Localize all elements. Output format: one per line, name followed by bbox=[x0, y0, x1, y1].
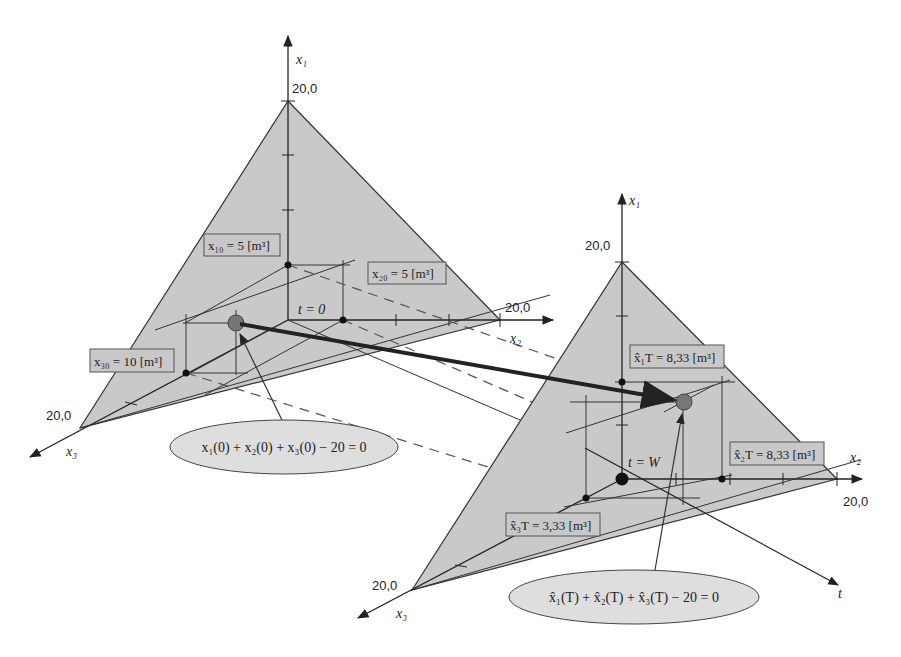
right-x3-label: x₃ bbox=[395, 606, 407, 621]
label-x10: x₁₀ = 5 [m³] bbox=[204, 234, 280, 256]
diagram-canvas: x₁ 20,0 20,0 x₂ 20,0 x₃ t = 0 x₁₀ = 5 [m… bbox=[0, 0, 901, 657]
left-x2-max: 20,0 bbox=[505, 300, 530, 315]
right-state-point bbox=[676, 394, 692, 410]
label-x30: x₃₀ = 10 [m³] bbox=[90, 349, 174, 372]
left-x3-label: x₃ bbox=[65, 444, 77, 459]
left-constraint-ellipse: x₁(0) + x₂(0) + x₃(0) − 20 = 0 bbox=[170, 420, 398, 474]
right-t-label: t bbox=[838, 586, 843, 601]
right-origin-point bbox=[616, 473, 629, 486]
label-x1T: x̂₁T = 8,33 [m³] bbox=[630, 345, 724, 368]
left-x2-label: x₂ bbox=[509, 331, 521, 346]
label-x20: x₂₀ = 5 [m³] bbox=[368, 262, 446, 284]
svg-text:x₂₀ = 5 [m³]: x₂₀ = 5 [m³] bbox=[372, 266, 434, 281]
label-x3T: x̂₃T = 3,33 [m³] bbox=[506, 513, 600, 536]
right-point-x2T bbox=[719, 476, 726, 483]
left-time-label: t = 0 bbox=[298, 302, 325, 317]
left-x1-label: x₁ bbox=[295, 52, 307, 67]
right-x1-max: 20,0 bbox=[585, 238, 610, 253]
svg-text:x̂₃T = 3,33 [m³]: x̂₃T = 3,33 [m³] bbox=[510, 518, 591, 533]
right-point-x3T bbox=[583, 495, 590, 502]
right-x2-max: 20,0 bbox=[843, 494, 868, 509]
right-x2-label: x₂ bbox=[849, 450, 861, 465]
left-point-x20 bbox=[340, 317, 347, 324]
right-time-label: t = W bbox=[628, 455, 661, 470]
svg-text:x₁(0) + x₂(0) + x₃(0) − 20 = 0: x₁(0) + x₂(0) + x₃(0) − 20 = 0 bbox=[201, 440, 366, 456]
left-x1-max: 20,0 bbox=[292, 81, 317, 96]
right-point-x1T bbox=[619, 379, 626, 386]
svg-text:x₁₀ = 5 [m³]: x₁₀ = 5 [m³] bbox=[208, 238, 270, 253]
left-x3-max: 20,0 bbox=[46, 408, 71, 423]
svg-text:x̂₂T = 8,33 [m³]: x̂₂T = 8,33 [m³] bbox=[734, 447, 815, 462]
right-x3-max: 20,0 bbox=[372, 578, 397, 593]
label-x2T: x̂₂T = 8,33 [m³] bbox=[730, 442, 824, 465]
svg-text:x₃₀ = 10 [m³]: x₃₀ = 10 [m³] bbox=[94, 354, 162, 369]
left-point-x30 bbox=[183, 370, 190, 377]
svg-text:x̂₁T = 8,33 [m³]: x̂₁T = 8,33 [m³] bbox=[634, 350, 715, 365]
svg-text:x̂₁(T) + x̂₂(T) + x̂₃(T) − 20: x̂₁(T) + x̂₂(T) + x̂₃(T) − 20 = 0 bbox=[549, 590, 719, 606]
left-point-x10 bbox=[285, 262, 292, 269]
right-x1-label: x₁ bbox=[628, 193, 640, 208]
right-constraint-ellipse: x̂₁(T) + x̂₂(T) + x̂₃(T) − 20 = 0 bbox=[509, 570, 759, 624]
